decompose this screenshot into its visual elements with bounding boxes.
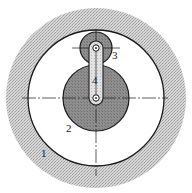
label-planet-gear: 3 <box>112 49 118 61</box>
label-ring-gear: 1 <box>41 147 47 159</box>
label-carrier-arm: 4 <box>92 74 98 86</box>
planet-pivot-dot <box>95 47 97 49</box>
label-sun-gear: 2 <box>66 122 72 134</box>
planetary-gear-diagram: 1 2 3 4 <box>0 0 192 193</box>
sun-pivot-dot <box>95 97 97 99</box>
carrier-arm-4 <box>89 41 103 105</box>
